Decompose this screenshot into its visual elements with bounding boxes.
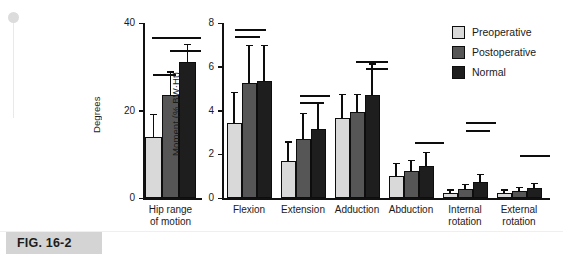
bar: [281, 161, 296, 198]
y-tick-label: 0: [188, 192, 214, 203]
y-tick-mark: [218, 23, 222, 25]
legend-item: Preoperative: [452, 24, 536, 40]
y-tick-mark: [218, 66, 222, 68]
y-tick-label: 2: [188, 148, 214, 159]
legend-item: Normal: [452, 64, 536, 80]
chart-legend: Preoperative Postoperative Normal: [452, 24, 536, 84]
error-bar-stem: [425, 152, 426, 166]
bar: [404, 171, 419, 198]
error-bar-cap: [354, 94, 361, 95]
bar: [497, 193, 512, 198]
y-axis-line: [222, 23, 224, 199]
error-bar-stem: [233, 92, 234, 123]
error-bar-cap: [462, 184, 469, 185]
significance-bar: [366, 68, 388, 70]
error-bar-cap: [408, 160, 415, 161]
legend-label-postoperative: Postoperative: [472, 46, 536, 58]
bar: [227, 123, 242, 198]
error-bar-cap: [501, 189, 508, 190]
y-tick-label: 8: [188, 17, 214, 28]
bar: [311, 129, 326, 198]
bar: [443, 193, 458, 198]
y-axis-title: Moment (% BW·Ht): [170, 33, 181, 196]
bar: [458, 189, 473, 198]
y-tick-mark: [218, 110, 222, 112]
bar: [389, 176, 404, 198]
legend-swatch-preoperative: [452, 26, 465, 39]
bar: [473, 182, 488, 198]
significance-bar: [415, 142, 444, 144]
y-tick-label: 4: [188, 105, 214, 116]
significance-bar: [300, 102, 324, 104]
legend-label-preoperative: Preoperative: [472, 26, 532, 38]
y-tick-mark: [218, 198, 222, 200]
bar: [512, 191, 527, 198]
x-group-label: External rotation: [479, 204, 559, 227]
error-bar-cap: [516, 187, 523, 188]
error-bar-stem: [341, 94, 342, 118]
y-tick-mark: [218, 154, 222, 156]
bar: [257, 81, 272, 198]
error-bar-cap: [285, 141, 292, 142]
error-bar-stem: [263, 45, 264, 81]
error-bar-cap: [261, 45, 268, 46]
legend-swatch-postoperative: [452, 46, 465, 59]
legend-item: Postoperative: [452, 44, 536, 60]
significance-bar: [235, 29, 266, 31]
error-bar-cap: [393, 163, 400, 164]
error-bar-cap: [231, 92, 238, 93]
error-bar-cap: [477, 174, 484, 175]
significance-bar: [356, 61, 388, 63]
bar: [527, 188, 542, 198]
bar: [242, 83, 257, 198]
bar: [419, 166, 434, 198]
error-bar-cap: [531, 183, 538, 184]
error-bar-cap: [246, 45, 253, 46]
significance-bar: [520, 155, 550, 157]
legend-label-normal: Normal: [472, 66, 506, 78]
error-bar-stem: [410, 160, 411, 171]
x-axis-line: [222, 198, 550, 200]
bar: [365, 95, 380, 198]
error-bar-cap: [300, 113, 307, 114]
error-bar-cap: [339, 94, 346, 95]
error-bar-stem: [356, 94, 357, 112]
error-bar-stem: [287, 141, 288, 161]
significance-bar: [300, 95, 330, 97]
error-bar-stem: [395, 163, 396, 176]
bar: [296, 139, 311, 198]
bar: [335, 118, 350, 198]
significance-bar: [235, 36, 260, 38]
error-bar-cap: [369, 63, 376, 64]
bar: [350, 112, 365, 198]
error-bar-stem: [302, 113, 303, 139]
significance-bar: [466, 130, 490, 132]
significance-bar: [466, 122, 496, 124]
legend-swatch-normal: [452, 66, 465, 79]
error-bar-stem: [317, 102, 318, 129]
error-bar-cap: [423, 152, 430, 153]
error-bar-cap: [447, 189, 454, 190]
error-bar-stem: [248, 45, 249, 83]
y-tick-label: 6: [188, 61, 214, 72]
